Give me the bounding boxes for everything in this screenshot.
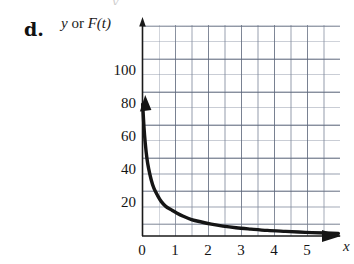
- x-tick-labels: 0 1 2 3 4 5: [0, 0, 354, 264]
- x-tick-label: 4: [264, 243, 284, 258]
- x-tick-label: 2: [198, 243, 218, 258]
- figure-canvas: y d. y or F(t) 100 80 60 40 20 0 1 2 3 4…: [0, 0, 354, 264]
- x-axis-label: x: [343, 239, 350, 254]
- x-tick-label: 0: [132, 243, 152, 258]
- x-tick-label: 1: [165, 243, 185, 258]
- x-tick-label: 3: [231, 243, 251, 258]
- x-tick-label: 5: [297, 243, 317, 258]
